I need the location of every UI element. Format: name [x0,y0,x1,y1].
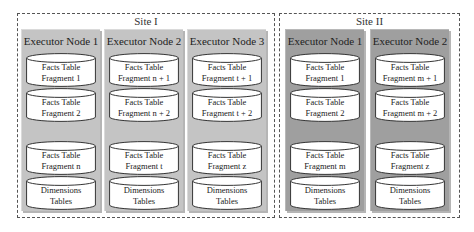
node-title: Executor Node 1 [286,35,364,47]
facts-table-fragment-cylinder: Facts TableFragment m + 2 [375,88,445,122]
cylinder-label-line2: Fragment t + 2 [192,108,262,119]
cylinder-label-line2: Fragment 1 [26,73,96,84]
facts-table-fragment-cylinder: Facts TableFragment m + 1 [375,53,445,87]
facts-table-fragment-cylinder: Facts TableFragment 1 [26,53,96,87]
site-1-executor-node-2: Executor Node 2Facts TableFragment n + 1… [104,29,183,211]
facts-table-fragment-cylinder: Facts TableFragment n + 1 [109,53,179,87]
site-2-executor-node-2: Executor Node 2Facts TableFragment m + 1… [370,29,449,211]
dimensions-tables-cylinder: DimensionsTables [290,176,360,210]
cylinder-label-line2: Fragment m + 1 [375,73,445,84]
cylinder-label-line1: Facts Table [109,62,179,73]
cylinder-label-line1: Facts Table [109,97,179,108]
dimensions-tables-cylinder: DimensionsTables [26,176,96,210]
cylinder-label-line1: Facts Table [290,150,360,161]
cylinder-label-line1: Dimensions [290,185,360,196]
cylinder-label-line1: Facts Table [109,150,179,161]
facts-table-fragment-cylinder: Facts TableFragment n [26,141,96,175]
cylinder-label-line1: Dimensions [192,185,262,196]
dimensions-tables-cylinder: DimensionsTables [375,176,445,210]
cylinder-label-line2: Fragment 1 [290,73,360,84]
cylinder-label-line1: Facts Table [26,97,96,108]
cylinder-label-line2: Fragment 2 [290,108,360,119]
cylinder-label-line1: Dimensions [26,185,96,196]
dimensions-tables-cylinder: DimensionsTables [192,176,262,210]
facts-table-fragment-cylinder: Facts TableFragment 2 [290,88,360,122]
cylinder-label-line1: Facts Table [375,62,445,73]
cylinder-label-line2: Fragment z [375,161,445,172]
cylinder-label-line2: Fragment 2 [26,108,96,119]
cylinder-label-line1: Facts Table [290,97,360,108]
cylinder-label-line2: Fragment n + 2 [109,108,179,119]
cylinder-label-line1: Facts Table [192,62,262,73]
facts-table-fragment-cylinder: Facts TableFragment m [290,141,360,175]
facts-table-fragment-cylinder: Facts TableFragment 2 [26,88,96,122]
cylinder-label-line2: Tables [375,196,445,207]
cylinder-label-line2: Fragment m [290,161,360,172]
cylinder-label-line2: Tables [26,196,96,207]
cylinder-label-line1: Facts Table [26,150,96,161]
cylinder-label-line2: Fragment n [26,161,96,172]
cylinder-label-line2: Fragment z [192,161,262,172]
cylinder-label-line2: Tables [290,196,360,207]
cylinder-label-line1: Facts Table [192,150,262,161]
site-1-executor-node-1: Executor Node 1Facts TableFragment 1Fact… [21,29,100,211]
cylinder-label-line1: Facts Table [290,62,360,73]
site-2-executor-node-1: Executor Node 1Facts TableFragment 1Fact… [285,29,364,211]
cylinder-label-line2: Fragment t [109,161,179,172]
cylinder-label-line1: Facts Table [375,97,445,108]
facts-table-fragment-cylinder: Facts TableFragment 1 [290,53,360,87]
facts-table-fragment-cylinder: Facts TableFragment z [375,141,445,175]
dimensions-tables-cylinder: DimensionsTables [109,176,179,210]
node-title: Executor Node 2 [371,35,449,47]
cylinder-label-line2: Fragment n + 1 [109,73,179,84]
cylinder-label-line2: Fragment t + 1 [192,73,262,84]
cylinder-label-line1: Facts Table [26,62,96,73]
cylinder-label-line2: Tables [109,196,179,207]
site-1-label: Site I [18,15,274,27]
site-1-executor-node-3: Executor Node 3Facts TableFragment t + 1… [187,29,266,211]
node-title: Executor Node 2 [105,35,183,47]
cylinder-label-line2: Fragment m + 2 [375,108,445,119]
cylinder-label-line2: Tables [192,196,262,207]
facts-table-fragment-cylinder: Facts TableFragment n + 2 [109,88,179,122]
facts-table-fragment-cylinder: Facts TableFragment t + 2 [192,88,262,122]
facts-table-fragment-cylinder: Facts TableFragment t + 1 [192,53,262,87]
site-2-label: Site II [280,15,459,27]
node-title: Executor Node 1 [22,35,100,47]
facts-table-fragment-cylinder: Facts TableFragment t [109,141,179,175]
node-title: Executor Node 3 [188,35,266,47]
cylinder-label-line1: Facts Table [192,97,262,108]
cylinder-label-line1: Dimensions [375,185,445,196]
cylinder-label-line1: Facts Table [375,150,445,161]
cylinder-label-line1: Dimensions [109,185,179,196]
facts-table-fragment-cylinder: Facts TableFragment z [192,141,262,175]
